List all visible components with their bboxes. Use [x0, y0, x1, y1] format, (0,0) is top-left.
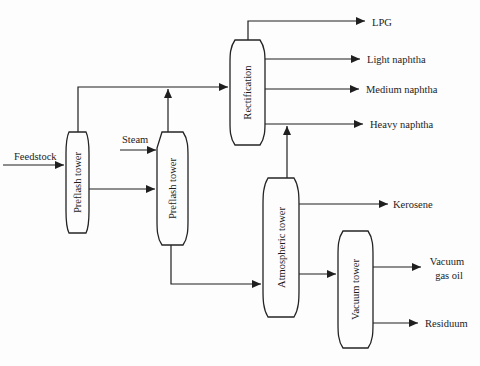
feedstock-label: Feedstock	[14, 151, 57, 162]
steam-label: Steam	[122, 134, 148, 145]
medium-naphtha-label: Medium naphtha	[366, 84, 438, 95]
light-naphtha-label: Light naphtha	[367, 54, 426, 65]
preflash-tower-1-label: Preflash tower	[72, 152, 83, 213]
vacuum-gas-oil-label-line1: Vacuum	[430, 256, 464, 267]
process-flow-diagram: Preflash tower Preflash tower Rectificat…	[0, 0, 480, 366]
preflash1-overhead-to-rectification-arrow	[78, 87, 228, 133]
tower-labels: Preflash tower Preflash tower Rectificat…	[72, 65, 361, 320]
lpg-label: LPG	[372, 17, 392, 28]
vacuum-tower-label: Vacuum tower	[350, 259, 361, 320]
residuum-label: Residuum	[425, 318, 468, 329]
preflash-tower-2-label: Preflash tower	[167, 158, 178, 219]
preflash2-bottoms-to-atmospheric-arrow	[171, 245, 261, 284]
diagram-canvas: Preflash tower Preflash tower Rectificat…	[0, 0, 480, 366]
rectification-tower-label: Rectification	[242, 65, 253, 120]
kerosene-label: Kerosene	[393, 199, 433, 210]
lpg-arrow	[248, 21, 365, 40]
vacuum-gas-oil-label-line2: gas oil	[435, 270, 463, 281]
heavy-naphtha-label: Heavy naphtha	[370, 119, 434, 130]
atmospheric-tower-label: Atmospheric tower	[276, 207, 287, 288]
towers	[66, 40, 373, 348]
